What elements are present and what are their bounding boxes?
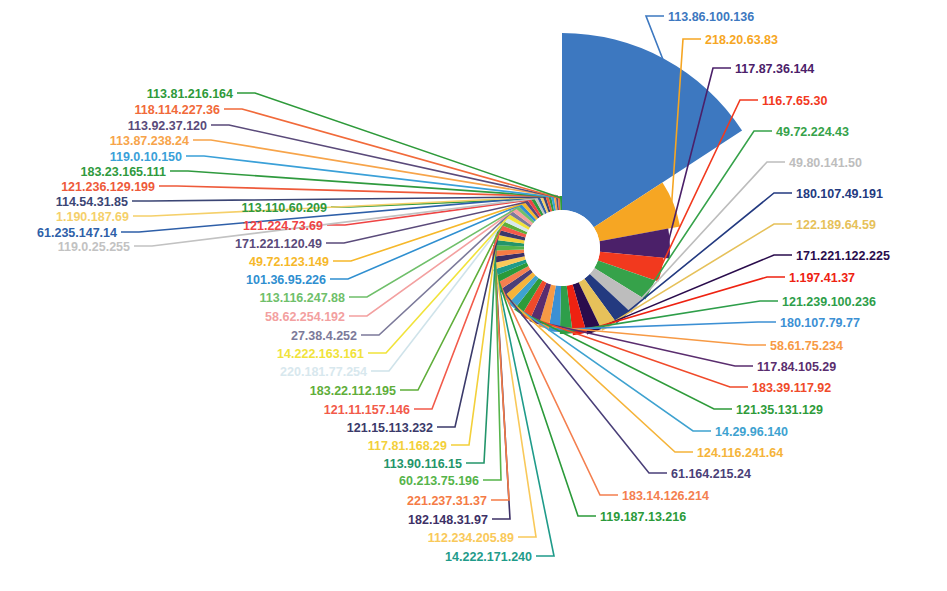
slice-label: 119.0.25.255 bbox=[58, 240, 130, 254]
slice-label: 27.38.4.252 bbox=[291, 329, 357, 343]
slice-label: 49.80.141.50 bbox=[789, 156, 862, 170]
leader-line bbox=[349, 210, 514, 316]
slice-label: 182.148.31.97 bbox=[408, 513, 488, 527]
slice-label: 117.87.36.144 bbox=[735, 62, 814, 76]
slice-label: 122.189.64.59 bbox=[796, 218, 876, 232]
slice-label: 49.72.123.149 bbox=[249, 255, 329, 269]
slice-label: 116.7.65.30 bbox=[762, 94, 827, 108]
slice-label: 121.239.100.236 bbox=[782, 295, 876, 309]
slice-label: 113.110.60.209 bbox=[241, 201, 327, 215]
leader-line bbox=[211, 125, 557, 197]
slice-label: 171.221.120.49 bbox=[235, 237, 322, 251]
slice-label: 183.14.126.214 bbox=[622, 489, 709, 503]
slice-label: 114.54.31.85 bbox=[56, 195, 128, 209]
slice-label: 121.236.129.199 bbox=[61, 180, 155, 194]
slice-label: 113.116.247.88 bbox=[259, 291, 345, 305]
slice-label: 180.107.79.77 bbox=[780, 316, 860, 330]
slice-label: 113.92.37.120 bbox=[128, 119, 207, 133]
slice-labels: 113.86.100.136218.20.63.83117.87.36.1441… bbox=[37, 10, 890, 564]
slice-label: 183.39.117.92 bbox=[752, 381, 831, 395]
slice-label: 221.237.31.37 bbox=[407, 494, 487, 508]
leader-line bbox=[237, 93, 561, 198]
slice-label: 220.181.77.254 bbox=[280, 365, 367, 379]
radial-pie-chart: 113.86.100.136218.20.63.83117.87.36.1441… bbox=[0, 0, 947, 591]
slice-label: 121.11.157.146 bbox=[324, 403, 410, 417]
slice-label: 218.20.63.83 bbox=[705, 33, 778, 47]
slice-label: 113.90.116.15 bbox=[383, 457, 462, 471]
donut-hole bbox=[524, 210, 600, 286]
slice-label: 119.187.13.216 bbox=[600, 510, 686, 524]
leader-line bbox=[159, 186, 547, 196]
slice-label: 183.23.165.111 bbox=[80, 165, 166, 179]
slice-label: 58.62.254.192 bbox=[265, 310, 345, 324]
slice-label: 180.107.49.191 bbox=[796, 187, 883, 201]
leader-line bbox=[134, 198, 536, 246]
slice-label: 117.81.168.29 bbox=[368, 439, 447, 453]
slice-label: 61.164.215.24 bbox=[671, 467, 751, 481]
slice-label: 121.35.131.129 bbox=[736, 403, 823, 417]
leader-line bbox=[544, 326, 766, 345]
slice-label: 112.234.205.89 bbox=[428, 531, 514, 545]
slice-label: 58.61.75.234 bbox=[770, 339, 843, 353]
slice-label: 101.36.95.226 bbox=[246, 273, 326, 287]
slice-label: 14.29.96.140 bbox=[715, 425, 788, 439]
slice-label: 117.84.105.29 bbox=[757, 360, 836, 374]
slice-label: 121.15.113.232 bbox=[347, 421, 433, 435]
slice-label: 119.0.10.150 bbox=[110, 150, 182, 164]
pie-slices bbox=[492, 33, 742, 335]
slice-label: 118.114.227.36 bbox=[134, 103, 220, 117]
slice-label: 113.86.100.136 bbox=[668, 10, 754, 24]
slice-label: 14.222.171.240 bbox=[445, 550, 532, 564]
slice-label: 61.235.147.14 bbox=[37, 226, 117, 240]
slice-label: 124.116.241.64 bbox=[697, 446, 783, 460]
slice-label: 1.197.41.37 bbox=[789, 271, 855, 285]
slice-label: 121.224.73.69 bbox=[243, 219, 323, 233]
slice-label: 171.221.122.225 bbox=[796, 249, 890, 263]
slice-label: 1.190.187.69 bbox=[56, 210, 129, 224]
slice-label: 113.87.238.24 bbox=[110, 134, 189, 148]
slice-label: 113.81.216.164 bbox=[147, 87, 233, 101]
leader-line bbox=[361, 213, 511, 335]
slice-label: 60.213.75.196 bbox=[399, 474, 479, 488]
slice-label: 183.22.112.195 bbox=[310, 384, 396, 398]
slice-label: 49.72.224.43 bbox=[776, 125, 849, 139]
slice-label: 14.222.163.161 bbox=[277, 347, 364, 361]
